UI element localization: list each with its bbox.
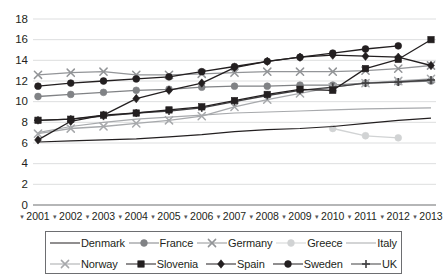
- series-italy: [38, 108, 431, 133]
- data-point-sweden: [264, 58, 271, 65]
- legend-item-spain[interactable]: Spain: [206, 258, 265, 270]
- data-point-france: [264, 83, 271, 90]
- legend-label: Denmark: [81, 237, 125, 249]
- legend-swatch-greece: [276, 237, 306, 249]
- series-line-denmark: [38, 118, 431, 142]
- x-axis-tick-2008: ▾2008: [249, 210, 279, 222]
- legend-marker-plus-icon: [359, 257, 373, 271]
- x-axis-tick-2004: ▾2004: [118, 210, 148, 222]
- data-point-slovenia: [100, 112, 106, 118]
- data-point-france: [231, 83, 238, 90]
- x-axis-tick-label: 2003: [92, 210, 116, 222]
- x-axis-tick-label: 2004: [125, 210, 149, 222]
- data-point-sweden: [329, 50, 336, 57]
- legend-label: Germany: [228, 237, 273, 249]
- legend-item-germany[interactable]: Germany: [197, 237, 273, 249]
- legend-label: Greece: [307, 237, 342, 249]
- data-point-sweden: [35, 83, 42, 90]
- data-point-sweden: [362, 46, 369, 53]
- series-sweden: [35, 42, 402, 89]
- x-axis-tick-2013: ▾2013: [413, 210, 443, 222]
- legend-swatch-france: [129, 237, 159, 249]
- data-point-sweden: [395, 42, 402, 49]
- x-tick-caret-icon: ▾: [151, 213, 155, 220]
- x-tick-caret-icon: ▾: [118, 213, 122, 220]
- data-point-slovenia: [428, 36, 434, 42]
- legend-item-greece[interactable]: Greece: [276, 237, 342, 249]
- line-chart-plot: 024681012141618▾2001▾2002▾2003▾2004▾2005…: [0, 0, 447, 228]
- legend-marker-square-icon: [134, 257, 148, 271]
- data-point-france: [67, 91, 74, 98]
- legend-item-uk[interactable]: UK: [351, 258, 397, 270]
- data-point-france: [140, 239, 147, 246]
- legend-swatch-slovenia: [126, 258, 156, 270]
- y-axis-tick-label: 14: [15, 54, 28, 66]
- legend-item-norway[interactable]: Norway: [50, 258, 118, 270]
- legend-swatch-spain: [206, 258, 236, 270]
- x-axis-tick-label: 2007: [223, 210, 247, 222]
- x-axis-tick-2003: ▾2003: [86, 210, 116, 222]
- data-point-spain: [218, 259, 225, 267]
- data-point-slovenia: [68, 116, 74, 122]
- chart-root: 024681012141618▾2001▾2002▾2003▾2004▾2005…: [0, 0, 447, 278]
- y-axis-tick-label: 18: [15, 13, 28, 25]
- legend-swatch-italy: [346, 237, 376, 249]
- legend-label: Norway: [81, 258, 118, 270]
- data-point-slovenia: [362, 65, 368, 71]
- x-tick-caret-icon: ▾: [249, 213, 253, 220]
- legend-line-icon: [50, 242, 80, 243]
- x-axis-tick-label: 2006: [190, 210, 214, 222]
- legend-marker-diamond-icon: [214, 257, 228, 271]
- chart-legend: DenmarkFranceGermanyGreeceItaly NorwaySl…: [45, 231, 402, 274]
- chart-svg: 024681012141618▾2001▾2002▾2003▾2004▾2005…: [0, 0, 447, 228]
- legend-line-icon: [346, 242, 376, 243]
- data-point-slovenia: [231, 97, 237, 103]
- x-axis-tick-label: 2011: [354, 210, 377, 222]
- x-tick-caret-icon: ▾: [184, 213, 188, 220]
- y-axis-tick-label: 6: [22, 137, 28, 149]
- legend-swatch-norway: [50, 258, 80, 270]
- legend-label: Slovenia: [157, 258, 198, 270]
- x-tick-caret-icon: ▾: [20, 213, 24, 220]
- data-point-slovenia: [330, 87, 336, 93]
- legend-item-slovenia[interactable]: Slovenia: [126, 258, 198, 270]
- data-point-slovenia: [264, 91, 270, 97]
- x-axis-tick-2002: ▾2002: [53, 210, 83, 222]
- x-axis-tick-2007: ▾2007: [217, 210, 247, 222]
- data-point-sweden: [198, 68, 205, 75]
- data-point-slovenia: [166, 107, 172, 113]
- data-point-sweden: [166, 73, 173, 80]
- data-point-slovenia: [297, 86, 303, 92]
- legend-item-denmark[interactable]: Denmark: [50, 237, 125, 249]
- legend-row-2: NorwaySloveniaSpainSwedenUK: [46, 253, 401, 274]
- x-axis-tick-label: 2008: [256, 210, 280, 222]
- legend-marker-x-icon: [205, 236, 219, 250]
- legend-item-france[interactable]: France: [129, 237, 194, 249]
- y-axis-tick-label: 4: [22, 157, 29, 169]
- data-point-france: [100, 89, 107, 96]
- legend-swatch-germany: [197, 237, 227, 249]
- legend-item-italy[interactable]: Italy: [346, 237, 397, 249]
- legend-item-sweden[interactable]: Sweden: [273, 258, 343, 270]
- x-axis-tick-2012: ▾2012: [380, 210, 410, 222]
- data-point-greece: [362, 132, 369, 139]
- series-line-italy: [38, 108, 431, 133]
- data-point-sweden: [231, 63, 238, 70]
- legend-swatch-uk: [351, 258, 381, 270]
- data-point-france: [35, 93, 42, 100]
- data-point-greece: [288, 239, 295, 246]
- legend-label: France: [160, 237, 194, 249]
- x-axis-tick-label: 2009: [288, 210, 312, 222]
- data-point-slovenia: [199, 104, 205, 110]
- series-line-sweden: [38, 46, 398, 86]
- x-tick-caret-icon: ▾: [380, 213, 384, 220]
- series-denmark: [38, 118, 431, 142]
- legend-swatch-denmark: [50, 237, 80, 249]
- legend-marker-circle-icon: [137, 236, 151, 250]
- series-greece: [329, 125, 401, 141]
- data-point-greece: [395, 134, 402, 141]
- x-axis-tick-2009: ▾2009: [282, 210, 312, 222]
- x-tick-caret-icon: ▾: [86, 213, 90, 220]
- data-point-sweden: [100, 78, 107, 85]
- series-slovenia: [35, 36, 434, 123]
